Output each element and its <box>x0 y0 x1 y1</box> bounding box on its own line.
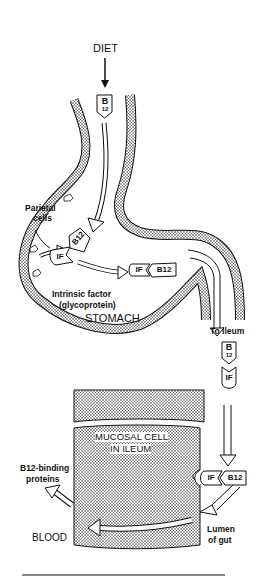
b12-top-sub: 12 <box>98 106 112 112</box>
intrinsic-factor-label-2: (glycoprotein) <box>59 300 116 310</box>
intrinsic-factor-label-1: Intrinsic factor <box>52 289 111 299</box>
if-ileum-text: IF <box>222 373 236 382</box>
mucosal-cell-upper <box>74 390 204 422</box>
stomach-label: STOMACH <box>85 313 140 323</box>
if-receptor-text: IF <box>203 473 219 482</box>
parietal-cells-label-2: cells <box>33 213 52 223</box>
b12-binding-label-2: proteins <box>26 474 60 484</box>
b12-absorption-diagram <box>0 0 270 579</box>
b12-ileum-letter: B <box>222 342 236 352</box>
lumen-label-2: of gut <box>208 535 232 545</box>
lumen-arrow <box>212 485 233 505</box>
b12-top-letter: B <box>98 96 112 106</box>
mucosal-cell-label-1: MUCOSAL CELL <box>95 432 168 442</box>
diet-label: DIET <box>93 43 118 53</box>
parietal-cells-label-1: Parietal <box>25 203 56 213</box>
b12-tag-complex-text: B12 <box>153 265 175 274</box>
b12-binding-label-1: B12-binding <box>20 463 69 473</box>
to-ileum-label: To ileum <box>210 326 244 336</box>
if-tag-complex-text: IF <box>131 265 147 274</box>
parietal-cells-arrow <box>35 230 50 248</box>
if-tag-parietal-text: IF <box>53 252 67 261</box>
lumen-label-1: Lumen <box>207 524 235 534</box>
esophagus-right-wall <box>119 95 240 320</box>
b12-ileum-sub: 12 <box>222 352 236 358</box>
b12-receptor-text: B12 <box>225 473 245 482</box>
mucosal-cell-label-2: IN ILEUM <box>110 444 151 454</box>
blood-label: BLOOD <box>32 533 67 543</box>
parietal-cell-shape <box>64 194 73 201</box>
diet-arrow <box>101 58 109 88</box>
